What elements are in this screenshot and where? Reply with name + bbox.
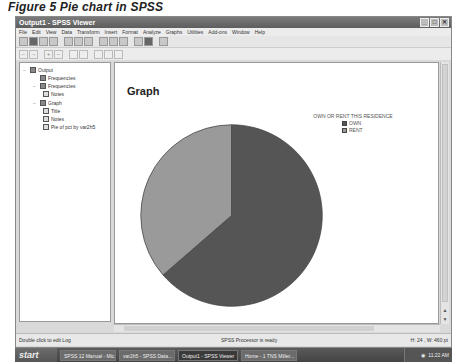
menu-insert[interactable]: Insert <box>105 28 118 36</box>
pie-chart[interactable] <box>136 120 327 311</box>
menu-analyze[interactable]: Analyze <box>143 28 161 36</box>
taskbar: start SPSS 12 Manual - Mic... var2h5 - S… <box>15 348 452 362</box>
promote-icon[interactable]: ← <box>19 50 28 59</box>
frequencies-book-icon <box>40 75 46 81</box>
outline-item-notes-2[interactable]: Notes <box>43 116 64 122</box>
notes-icon <box>43 116 49 122</box>
task-home[interactable]: Home - 1 TNS Miller... <box>241 350 297 361</box>
frequencies-book-icon <box>40 83 46 89</box>
processor-status: SPSS Processor is ready <box>221 334 277 346</box>
goto-data-icon[interactable] <box>99 37 108 46</box>
task-spss-data-editor[interactable]: var2h5 - SPSS Data... <box>119 350 175 361</box>
run-icon[interactable] <box>159 37 168 46</box>
graph-book-icon <box>40 100 46 106</box>
variables-icon[interactable] <box>119 37 128 46</box>
title-icon <box>43 108 49 114</box>
horizontal-scroll-thumb[interactable] <box>124 326 374 331</box>
demote-icon[interactable]: → <box>29 50 38 59</box>
outline-pane[interactable]: − Output Frequencies − Frequencies Notes… <box>19 62 111 322</box>
chart-legend: OWN OR RENT THIS RESIDENCE OWN RENT <box>312 113 394 133</box>
spss-viewer-window: Output1 - SPSS Viewer _ □ ✕ File Edit Vi… <box>15 16 452 348</box>
outline-item-title[interactable]: Title <box>43 108 60 114</box>
status-bar: Double click to edit Log SPSS Processor … <box>16 333 451 346</box>
rent-swatch <box>342 128 347 133</box>
collapse-toggle[interactable]: − <box>33 100 38 106</box>
notes-icon <box>43 91 49 97</box>
insert-title-icon[interactable] <box>104 50 113 59</box>
scroll-down-arrow[interactable]: ▼ <box>441 315 449 323</box>
minimize-button[interactable]: _ <box>420 18 429 27</box>
window-title: Output1 - SPSS Viewer <box>19 19 95 26</box>
outline-item-output[interactable]: − Output <box>23 67 53 73</box>
maximize-button[interactable]: □ <box>430 18 439 27</box>
task-spss-viewer[interactable]: Output1 - SPSS Viewer <box>178 350 238 361</box>
title-bar: Output1 - SPSS Viewer _ □ ✕ <box>16 17 451 28</box>
figure-caption: Figure 5 Pie chart in SPSS <box>8 0 163 14</box>
menu-add-ons[interactable]: Add-ons <box>208 28 227 36</box>
system-tray: ◉ 11:22 AM <box>404 348 452 362</box>
outline-item-graph[interactable]: − Graph <box>33 100 62 106</box>
undo-icon[interactable] <box>84 37 93 46</box>
menu-file[interactable]: File <box>19 28 27 36</box>
own-swatch <box>342 121 347 126</box>
outline-item-notes[interactable]: Notes <box>43 91 64 97</box>
output-book-icon <box>30 67 36 73</box>
legend-item-rent: RENT <box>312 127 394 133</box>
outline-item-frequencies[interactable]: Frequencies <box>33 75 76 81</box>
vertical-scrollbar[interactable]: ▲ ▼ <box>440 62 449 324</box>
select-cases-icon[interactable] <box>144 37 153 46</box>
close-button[interactable]: ✕ <box>440 18 449 27</box>
print-preview-icon[interactable] <box>49 37 58 46</box>
chart-icon <box>43 124 49 130</box>
menu-help[interactable]: Help <box>255 28 265 36</box>
content-pane: Graph OWN OR RENT THIS RESIDENCE OWN REN… <box>114 62 439 324</box>
vertical-scroll-thumb[interactable] <box>442 64 448 302</box>
open-icon[interactable] <box>19 37 28 46</box>
collapse-toggle[interactable]: − <box>23 67 28 73</box>
insert-heading-icon[interactable] <box>94 50 103 59</box>
show-icon[interactable] <box>69 50 78 59</box>
clock: 11:22 AM <box>428 352 449 358</box>
menu-utilities[interactable]: Utilities <box>187 28 203 36</box>
expand-icon[interactable]: + <box>44 50 53 59</box>
legend-item-own: OWN <box>312 120 394 126</box>
export-icon[interactable] <box>64 37 73 46</box>
scroll-up-arrow[interactable]: ▲ <box>441 306 449 314</box>
menu-window[interactable]: Window <box>232 28 250 36</box>
menu-format[interactable]: Format <box>122 28 138 36</box>
recall-dialog-icon[interactable] <box>74 37 83 46</box>
insert-text-icon[interactable] <box>114 50 123 59</box>
start-button[interactable]: start <box>15 348 57 362</box>
menu-graphs[interactable]: Graphs <box>166 28 182 36</box>
menu-transform[interactable]: Transform <box>77 28 100 36</box>
graph-heading: Graph <box>127 85 159 97</box>
collapse-toggle[interactable]: − <box>33 83 38 89</box>
collapse-icon[interactable]: − <box>54 50 63 59</box>
horizontal-scrollbar[interactable] <box>114 324 440 332</box>
hide-icon[interactable] <box>79 50 88 59</box>
task-spss-manual[interactable]: SPSS 12 Manual - Mic... <box>60 350 116 361</box>
outline-item-pie-chart[interactable]: Pie of pct by var2h5 <box>43 124 95 130</box>
legend-title: OWN OR RENT THIS RESIDENCE <box>312 113 394 119</box>
outline-toolbar: ← → + − <box>16 48 451 60</box>
size-status: H: 24 , W: 460 pt <box>411 334 448 346</box>
menu-data[interactable]: Data <box>61 28 72 36</box>
menu-edit[interactable]: Edit <box>32 28 41 36</box>
status-hint: Double click to edit Log <box>19 334 71 346</box>
print-icon[interactable] <box>39 37 48 46</box>
goto-case-icon[interactable] <box>109 37 118 46</box>
tray-icon[interactable]: ◉ <box>421 352 425 358</box>
find-icon[interactable] <box>134 37 143 46</box>
menu-bar: File Edit View Data Transform Insert For… <box>16 28 451 36</box>
menu-view[interactable]: View <box>46 28 57 36</box>
save-icon[interactable] <box>29 37 38 46</box>
outline-item-frequencies-2[interactable]: − Frequencies <box>33 83 76 89</box>
main-toolbar <box>16 36 451 48</box>
